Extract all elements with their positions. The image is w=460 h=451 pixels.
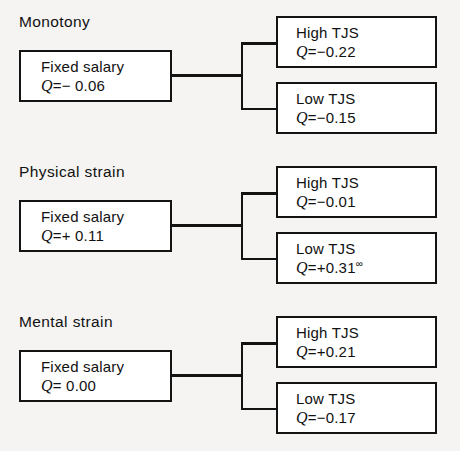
q-value-text: =+0.21	[308, 343, 356, 360]
q-symbol: Q	[41, 377, 53, 394]
q-value-text: =+ 0.11	[53, 227, 104, 244]
group-title: Physical strain	[19, 162, 125, 181]
group-title: Mental strain	[19, 312, 113, 331]
q-value-text: =− 0.06	[53, 77, 105, 94]
q-symbol: Q	[296, 259, 308, 276]
root-node-box: Fixed salary Q=− 0.06	[19, 50, 172, 102]
connector-vertical	[241, 192, 244, 260]
connector-arm-top	[241, 342, 278, 345]
q-symbol: Q	[41, 77, 53, 94]
branch-node-label: Low TJS	[296, 389, 435, 408]
branch-node-box-low: Low TJS Q=+0.31∞	[276, 232, 437, 284]
connector-arm-top	[241, 42, 278, 45]
root-node-box: Fixed salary Q=+ 0.11	[19, 200, 172, 252]
branch-node-box-low: Low TJS Q=−0.15	[276, 82, 437, 134]
root-node-value: Q=− 0.06	[41, 76, 170, 95]
branch-node-box-high: High TJS Q=−0.01	[276, 166, 437, 218]
root-node-label: Fixed salary	[41, 57, 170, 76]
q-value-text: =−0.17	[308, 409, 356, 426]
q-symbol: Q	[296, 109, 308, 126]
q-value-text: =+0.31	[308, 259, 356, 276]
branch-node-value: Q=−0.15	[296, 108, 435, 127]
q-symbol: Q	[41, 227, 53, 244]
connector-vertical	[241, 42, 244, 110]
branch-node-box-low: Low TJS Q=−0.17	[276, 382, 437, 434]
diagram-group: Monotony Fixed salary Q=− 0.06 High TJS …	[0, 0, 460, 150]
diagram-canvas: Monotony Fixed salary Q=− 0.06 High TJS …	[0, 0, 460, 451]
q-value-text: =−0.01	[308, 193, 356, 210]
root-node-value: Q= 0.00	[41, 376, 170, 395]
root-node-label: Fixed salary	[41, 357, 170, 376]
q-symbol: Q	[296, 43, 308, 60]
q-symbol: Q	[296, 343, 308, 360]
connector-stem	[172, 224, 243, 227]
connector-vertical	[241, 342, 244, 410]
branch-node-box-high: High TJS Q=+0.21	[276, 316, 437, 368]
q-value-text: = 0.00	[53, 377, 96, 394]
branch-node-value: Q=−0.22	[296, 42, 435, 61]
branch-node-label: High TJS	[296, 323, 435, 342]
branch-node-value: Q=−0.17	[296, 408, 435, 427]
branch-node-value: Q=−0.01	[296, 192, 435, 211]
connector-stem	[172, 74, 243, 77]
branch-node-label: High TJS	[296, 23, 435, 42]
root-node-value: Q=+ 0.11	[41, 226, 170, 245]
diagram-group: Mental strain Fixed salary Q= 0.00 High …	[0, 300, 460, 451]
q-symbol: Q	[296, 193, 308, 210]
diagram-group: Physical strain Fixed salary Q=+ 0.11 Hi…	[0, 150, 460, 300]
branch-node-label: High TJS	[296, 173, 435, 192]
connector-arm-bottom	[241, 108, 278, 111]
branch-node-value: Q=+0.31∞	[296, 258, 435, 277]
group-title: Monotony	[19, 12, 90, 31]
branch-node-label: Low TJS	[296, 239, 435, 258]
connector-stem	[172, 374, 243, 377]
root-node-label: Fixed salary	[41, 207, 170, 226]
q-value-text: =−0.22	[308, 43, 356, 60]
branch-node-value: Q=+0.21	[296, 342, 435, 361]
connector-arm-bottom	[241, 258, 278, 261]
q-value-text: =−0.15	[308, 109, 356, 126]
q-symbol: Q	[296, 409, 308, 426]
branch-node-label: Low TJS	[296, 89, 435, 108]
branch-node-box-high: High TJS Q=−0.22	[276, 16, 437, 68]
connector-arm-top	[241, 192, 278, 195]
connector-arm-bottom	[241, 408, 278, 411]
significance-marker: ∞	[356, 258, 363, 269]
root-node-box: Fixed salary Q= 0.00	[19, 350, 172, 402]
